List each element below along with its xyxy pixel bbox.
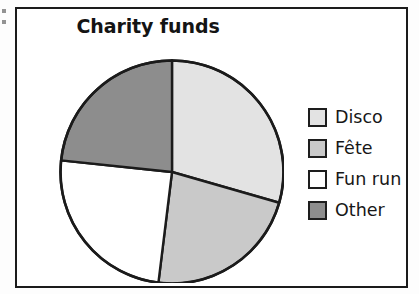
legend-label-fun-run: Fun run	[335, 171, 401, 189]
legend-swatch-fete	[308, 139, 327, 158]
legend-item-fun-run[interactable]: Fun run	[308, 164, 419, 195]
legend-item-other[interactable]: Other	[308, 195, 419, 226]
legend-label-disco: Disco	[335, 109, 383, 127]
pie-slice-fun-run[interactable]	[60, 160, 172, 282]
chart-title: Charity funds	[17, 15, 279, 37]
legend: Disco Fête Fun run Other	[308, 102, 419, 226]
pie-chart	[44, 53, 284, 283]
page-canvas: Charity funds Disco Fête	[0, 0, 419, 294]
chart-frame: Charity funds Disco Fête	[15, 7, 408, 288]
pie-slice-other[interactable]	[61, 61, 172, 173]
scan-artifact-mark	[2, 20, 6, 24]
pie-chart-svg	[44, 53, 284, 283]
legend-label-fete: Fête	[335, 140, 373, 158]
legend-item-disco[interactable]: Disco	[308, 102, 419, 133]
scan-artifact-mark	[2, 9, 6, 13]
legend-swatch-other	[308, 201, 327, 220]
legend-swatch-disco	[308, 108, 327, 127]
legend-swatch-fun-run	[308, 170, 327, 189]
legend-label-other: Other	[335, 202, 385, 220]
legend-item-fete[interactable]: Fête	[308, 133, 419, 164]
